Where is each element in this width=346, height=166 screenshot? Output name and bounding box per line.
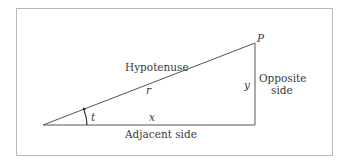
opposite-label-line1: Opposite [259, 73, 307, 84]
hypotenuse-variable: r [146, 85, 151, 96]
hypotenuse-label: Hypotenuse [125, 62, 189, 73]
opposite-label-line2: side [271, 85, 293, 96]
opposite-variable: y [244, 80, 250, 91]
point-label: P [257, 33, 264, 44]
angle-label: t [91, 112, 95, 123]
angle-arc-icon [84, 110, 87, 125]
adjacent-label: Adjacent side [125, 129, 197, 140]
adjacent-variable: x [149, 112, 155, 123]
